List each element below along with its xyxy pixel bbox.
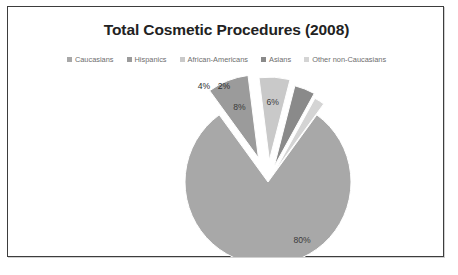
legend-swatch-icon [127, 57, 132, 62]
legend-item-asians[interactable]: Asians [261, 56, 291, 63]
legend-item-hispanics[interactable]: Hispanics [127, 56, 167, 63]
chart-legend: Caucasians Hispanics African-Americans A… [8, 56, 445, 63]
legend-item-other-non-caucasians[interactable]: Other non-Caucasians [304, 56, 386, 63]
legend-label: Asians [269, 56, 291, 63]
pie-slice-value-label: 4% [198, 81, 211, 91]
pie-slice-value-label: 6% [267, 97, 280, 107]
pie-slice[interactable] [259, 77, 290, 160]
legend-label: Caucasians [75, 56, 114, 63]
pie-chart-area: 80%8%6%4%2% [8, 69, 445, 257]
page-title: Total Cosmetic Procedures (2008) [8, 21, 445, 39]
legend-label: Other non-Caucasians [312, 56, 386, 63]
legend-swatch-icon [304, 57, 309, 62]
legend-label: Hispanics [135, 56, 167, 63]
pie-slice-value-label: 2% [218, 81, 231, 91]
pie-slice-value-label: 80% [293, 235, 311, 245]
legend-item-african-americans[interactable]: African-Americans [180, 56, 248, 63]
legend-item-caucasians[interactable]: Caucasians [67, 56, 114, 63]
chart-frame: Total Cosmetic Procedures (2008) Caucasi… [7, 6, 444, 257]
pie-chart-svg: 80%8%6%4%2% [8, 69, 445, 257]
legend-swatch-icon [67, 57, 72, 62]
legend-label: African-Americans [188, 56, 248, 63]
legend-swatch-icon [261, 57, 266, 62]
screenshot-root: Total Cosmetic Procedures (2008) Caucasi… [0, 0, 458, 275]
legend-swatch-icon [180, 57, 185, 62]
pie-slice-value-label: 8% [233, 102, 246, 112]
